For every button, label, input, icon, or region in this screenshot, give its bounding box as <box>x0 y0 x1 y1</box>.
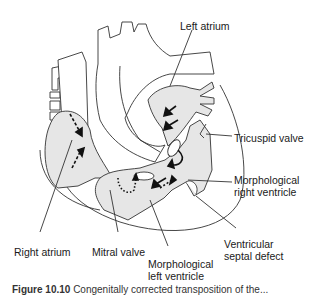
label-morph-right-ventricle-line1: Morphological <box>234 174 299 186</box>
label-right-atrium: Right atrium <box>14 246 71 258</box>
label-mitral-valve: Mitral valve <box>92 246 145 258</box>
figure-caption: Figure 10.10 Congenitally corrected tran… <box>12 284 268 295</box>
label-vsd-line1: Ventricular <box>224 238 274 250</box>
label-vsd-line2: septal defect <box>224 250 284 262</box>
caption-prefix: Figure 10.10 <box>12 284 70 295</box>
label-tricuspid-valve: Tricuspid valve <box>234 132 304 144</box>
caption-text: Congenitally corrected transposition of … <box>73 284 268 295</box>
label-morph-left-ventricle-line2: left ventricle <box>148 270 204 282</box>
label-left-atrium: Left atrium <box>180 20 230 32</box>
label-morph-left-ventricle-line1: Morphological <box>148 258 213 270</box>
label-morph-right-ventricle-line2: right ventricle <box>234 186 296 198</box>
